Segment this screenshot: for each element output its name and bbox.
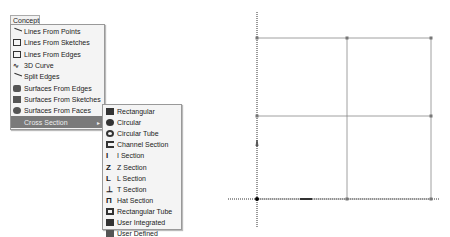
sketch-canvas[interactable]: [0, 0, 450, 237]
origin-point: [255, 197, 259, 201]
sketch-points: [256, 37, 433, 201]
sketch-lines: [257, 38, 431, 199]
y-axis-arrow-icon: [256, 140, 258, 146]
x-axis-arrow-icon: [300, 198, 312, 200]
